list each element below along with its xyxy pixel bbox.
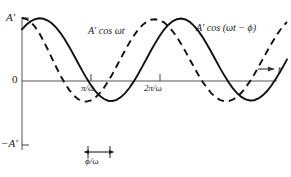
curve-label-reference-cosine: A′ cos ωt [88,26,124,36]
y-axis-label-zero: 0 [12,74,18,85]
y-axis-label-positive-amplitude: A′ [6,12,15,23]
phase-shifted-cosine-figure: A′ −A′ 0 π/ω 2π/ω A′ cos ωt A′ cos (ωt −… [0,0,291,177]
x-tick-label-2pi-over-omega: 2π/ω [144,84,162,93]
x-axis-label: t [278,65,281,75]
phase-lag-label: ϕ/ω [85,157,99,166]
curve-label-shifted-cosine: A′ cos (ωt − ϕ) [196,23,256,33]
x-tick-label-pi-over-omega: π/ω [81,84,94,93]
y-axis-label-negative-amplitude: −A′ [1,138,18,149]
